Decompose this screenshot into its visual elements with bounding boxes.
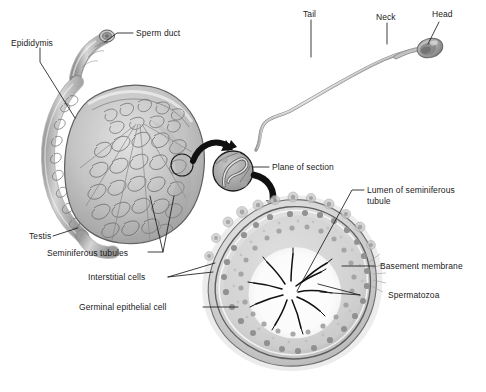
spermatozoon-illustration — [256, 35, 445, 150]
label-basement-membrane: Basement membrane — [380, 261, 463, 272]
label-neck: Neck — [376, 12, 396, 23]
label-plane-of-section: Plane of section — [272, 162, 334, 173]
testis-section-illustration — [45, 30, 204, 252]
label-lumen-of-seminiferous-tubule: Lumen of seminiferous tubule — [367, 185, 455, 207]
label-testis: Testis — [29, 231, 51, 242]
sperm-duct-shape — [73, 30, 115, 80]
label-germinal-epithelial-cell: Germinal epithelial cell — [79, 302, 167, 313]
tubule-cross-section-illustration — [202, 192, 386, 371]
label-seminiferous-tubules: Seminiferous tubules — [47, 248, 128, 259]
label-epididymis: Epididymis — [11, 38, 53, 49]
testis-body — [65, 85, 205, 248]
label-spermatozoa: Spermatozoa — [388, 290, 440, 301]
figure-root: Epididymis Sperm duct Testis Seminiferou… — [0, 0, 486, 392]
label-interstitial-cells: Interstitial cells — [88, 272, 145, 283]
label-head: Head — [432, 9, 453, 20]
label-sperm-duct: Sperm duct — [136, 28, 180, 39]
label-tail: Tail — [303, 9, 316, 20]
